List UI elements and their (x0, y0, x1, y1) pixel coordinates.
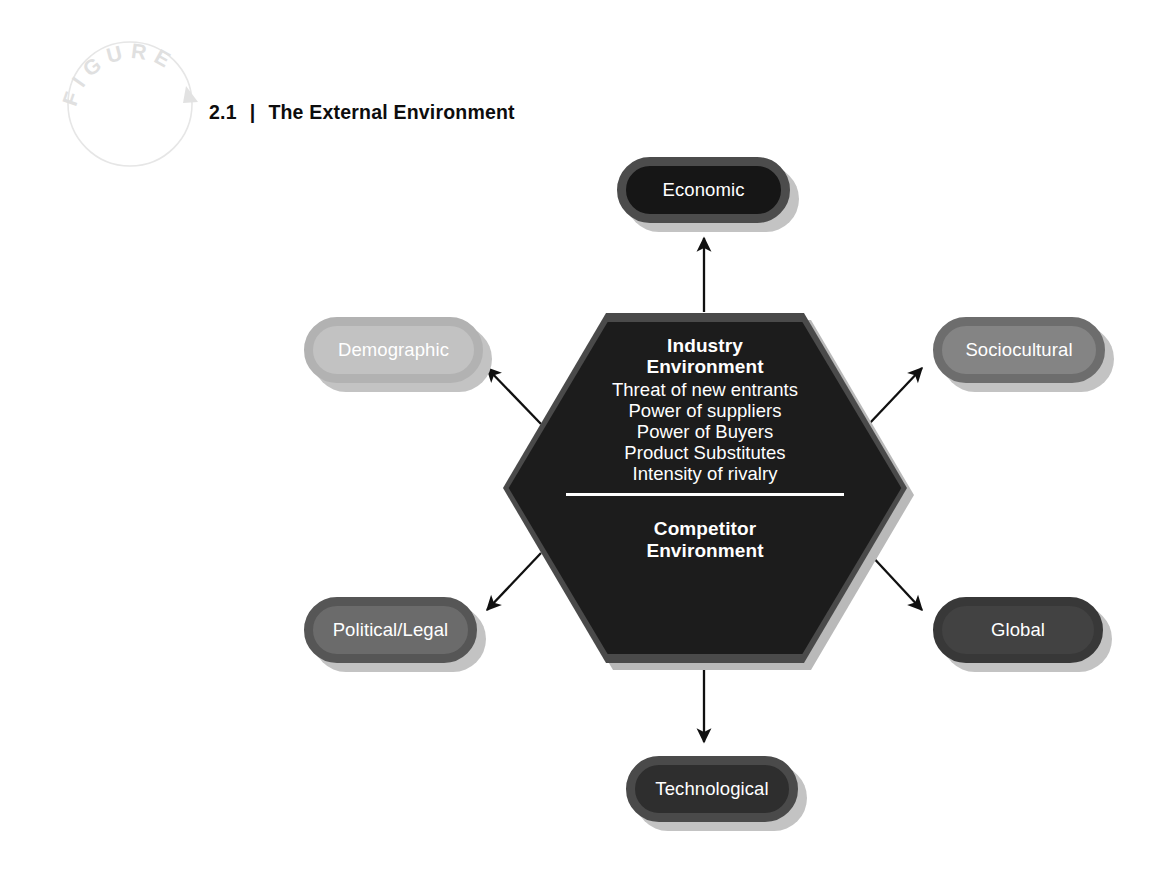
segment-sociocultural-label: Sociocultural (965, 339, 1072, 361)
hexagon-divider (566, 493, 844, 496)
segment-economic-label: Economic (662, 179, 744, 201)
industry-heading-line-1: Industry (646, 335, 763, 356)
competitor-heading-line-1: Competitor (646, 518, 763, 539)
segment-political-legal[interactable]: Political/Legal (304, 597, 477, 663)
segment-political-legal-label: Political/Legal (333, 619, 449, 641)
competitor-heading-line-2: Environment (646, 540, 763, 561)
segment-demographic[interactable]: Demographic (304, 317, 483, 383)
industry-heading-line-2: Environment (646, 356, 763, 377)
force-item: Power of Buyers (612, 421, 798, 442)
segment-sociocultural[interactable]: Sociocultural (933, 317, 1105, 383)
industry-environment-heading: Industry Environment (646, 335, 763, 378)
segment-global-label: Global (991, 619, 1045, 641)
segment-global[interactable]: Global (933, 597, 1103, 663)
force-item: Intensity of rivalry (612, 463, 798, 484)
competitor-environment-heading: Competitor Environment (646, 518, 763, 561)
force-item: Product Substitutes (612, 442, 798, 463)
hexagon-content: Industry Environment Threat of new entra… (503, 313, 907, 663)
five-forces-list: Threat of new entrants Power of supplier… (612, 379, 798, 484)
force-item: Power of suppliers (612, 400, 798, 421)
segment-technological[interactable]: Technological (626, 756, 798, 822)
segment-demographic-label: Demographic (338, 339, 449, 361)
force-item: Threat of new entrants (612, 379, 798, 400)
segment-economic[interactable]: Economic (617, 157, 790, 223)
industry-environment-hexagon: Industry Environment Threat of new entra… (503, 313, 907, 663)
figure-canvas: FIGURE 2.1|The External Environment (0, 0, 1166, 875)
segment-technological-label: Technological (655, 778, 768, 800)
